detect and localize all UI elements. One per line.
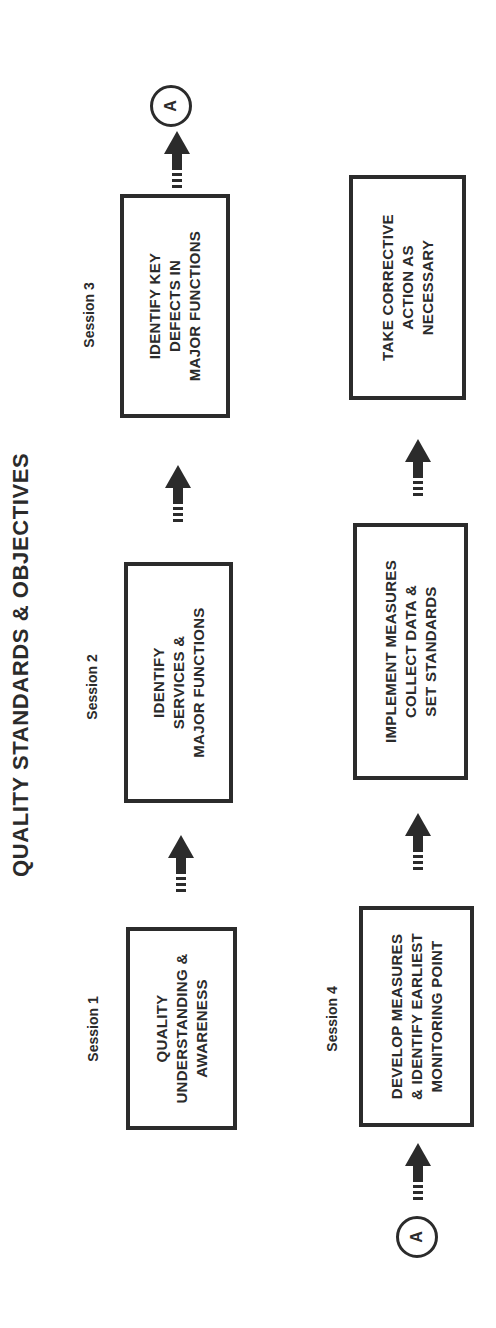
connector-a-out-icon: A (150, 85, 192, 127)
flow-arrow-right-icon (405, 1143, 431, 1200)
diagram-title: QUALITY STANDARDS & OBJECTIVES (11, 473, 31, 877)
session-4-label: Session 4 (325, 979, 339, 1059)
step-box-text: DEVELOP MEASURES & IDENTIFY EARLIEST MON… (387, 933, 447, 1100)
flow-arrow-right-icon (165, 465, 191, 522)
step-box-text: IDENTIFY KEY DEFECTS IN MAJOR FUNCTIONS (145, 231, 205, 381)
step-box-text: QUALITY UNDERSTANDING & AWARENESS (152, 953, 212, 1103)
step-line: MAJOR FUNCTIONS (185, 231, 205, 381)
step-line: MONITORING POINT (427, 933, 447, 1100)
step-line: SERVICES & (169, 607, 189, 757)
connector-label: A (408, 1231, 426, 1243)
step-line: IDENTIFY KEY (145, 231, 165, 381)
step-box-identify-key-defects: IDENTIFY KEY DEFECTS IN MAJOR FUNCTIONS (120, 194, 230, 418)
step-box-quality-understanding: QUALITY UNDERSTANDING & AWARENESS (126, 927, 237, 1130)
step-line: ACTION AS (398, 214, 418, 361)
step-box-text: TAKE CORRECTIVE ACTION AS NECESSARY (378, 214, 438, 361)
session-1-label: Session 1 (86, 989, 100, 1069)
step-box-corrective-action: TAKE CORRECTIVE ACTION AS NECESSARY (349, 175, 466, 400)
session-2-label: Session 2 (85, 647, 99, 727)
step-line: UNDERSTANDING & (172, 953, 192, 1103)
step-box-implement-measures: IMPLEMENT MEASURES COLLECT DATA & SET ST… (353, 523, 468, 780)
step-line: DEFECTS IN (165, 231, 185, 381)
step-line: SET STANDARDS (421, 560, 441, 743)
step-line: NECESSARY (418, 214, 438, 361)
connector-label: A (162, 100, 180, 112)
step-line: & IDENTIFY EARLIEST (407, 933, 427, 1100)
step-line: AWARENESS (192, 953, 212, 1103)
step-line: IDENTIFY (149, 607, 169, 757)
flow-arrow-right-icon (164, 131, 190, 188)
step-line: IMPLEMENT MEASURES (381, 560, 401, 743)
step-line: QUALITY (152, 953, 172, 1103)
step-line: COLLECT DATA & (401, 560, 421, 743)
flow-arrow-right-icon (405, 813, 431, 870)
connector-a-in-icon: A (396, 1216, 438, 1258)
flow-arrow-right-icon (168, 835, 194, 892)
session-3-label: Session 3 (82, 275, 96, 355)
step-line: DEVELOP MEASURES (387, 933, 407, 1100)
diagram-canvas: QUALITY STANDARDS & OBJECTIVES Session 1… (0, 0, 496, 1328)
step-line: TAKE CORRECTIVE (378, 214, 398, 361)
step-box-text: IMPLEMENT MEASURES COLLECT DATA & SET ST… (381, 560, 441, 743)
flow-arrow-right-icon (405, 439, 431, 496)
step-line: MAJOR FUNCTIONS (189, 607, 209, 757)
step-box-text: IDENTIFY SERVICES & MAJOR FUNCTIONS (149, 607, 209, 757)
step-box-develop-measures: DEVELOP MEASURES & IDENTIFY EARLIEST MON… (359, 906, 474, 1127)
step-box-identify-services: IDENTIFY SERVICES & MAJOR FUNCTIONS (124, 562, 233, 803)
